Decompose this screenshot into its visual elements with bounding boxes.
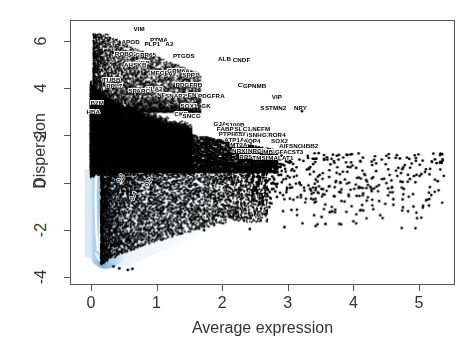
x-tick-mark [91,285,92,291]
x-tick-label: 4 [338,294,368,312]
gene-label: A2 [165,41,173,48]
gene-label: ROBO2 [115,50,138,57]
dispersion-scatter-figure: VIMAPODPTMAPLP1A2ROBO2GPR65PTGDSALBCNDFH… [0,0,474,349]
gene-label: AHSKB [124,61,147,68]
gene-label: PDGFRB [176,81,203,88]
gene-label: ALB [218,56,231,63]
gene-label: SPP1 [182,72,198,79]
gene-label: PTGDS [173,53,195,60]
gene-label: APOD [122,38,140,45]
x-tick-label: 3 [273,294,303,312]
gene-label: VIM [134,26,145,33]
y-tick-mark [64,183,70,184]
gene-label: GPNMB [243,82,267,89]
y-tick-mark [64,135,70,136]
plot-area: VIMAPODPTMAPLP1A2ROBO2GPR65PTGDSALBCNDFH… [70,20,455,285]
x-tick-mark [157,285,158,291]
gene-label: PDGFRA [198,93,225,100]
gene-label: HBA [86,108,100,115]
y-tick-mark [64,277,70,278]
x-tick-mark [353,285,354,291]
gene-label: MALAT1 [268,155,293,162]
gene-label: SNCG [183,112,201,119]
gene-label: STMN2 [265,105,286,112]
gene-label: CNDF [233,56,251,63]
x-axis-title: Average expression [70,319,455,337]
x-tick-label: 5 [404,294,434,312]
gene-label: HBB2 [301,143,318,150]
x-tick-label: 2 [207,294,237,312]
gene-label: GK [201,103,210,110]
gene-label: PLP1 [144,41,160,48]
gene-label: NPY [294,104,307,111]
gene-label: GPR65 [135,52,156,59]
y-tick-mark [64,88,70,89]
y-tick-label: -4 [32,262,50,292]
x-tick-label: 0 [76,294,106,312]
gene-label: VIP [272,94,282,101]
y-axis-title: Dispersion [31,51,49,251]
gene-label: SOX1 [181,103,198,110]
x-tick-label: 1 [142,294,172,312]
gene-label: B2M [91,100,104,107]
x-tick-mark [419,285,420,291]
gene-label: RPL7 [106,83,122,90]
y-tick-mark [64,41,70,42]
gene-label: SPARC [128,88,150,95]
gene-label: SNAP25 [165,93,190,100]
y-tick-mark [64,230,70,231]
x-tick-mark [288,285,289,291]
x-tick-mark [222,285,223,291]
